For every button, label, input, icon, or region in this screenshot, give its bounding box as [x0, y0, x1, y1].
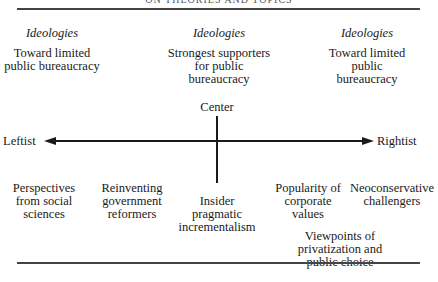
perspective-social-sciences: Perspectives from social sciences — [12, 182, 76, 221]
leftist-label: Leftist — [3, 135, 45, 148]
bottom-rule — [17, 262, 420, 264]
desc-line: public bureaucracy — [2, 60, 102, 73]
top-rule — [17, 8, 420, 10]
ideology-desc-center: Strongest supporters for public bureaucr… — [157, 47, 281, 86]
perspective-line: values — [268, 208, 348, 221]
perspective-line: sciences — [12, 208, 76, 221]
ideology-desc-right: Toward limited public bureaucracy — [317, 47, 417, 86]
center-axis-line — [216, 116, 218, 183]
perspective-insider-incrementalism: Insider pragmatic incrementalism — [172, 195, 262, 234]
rightist-label: Rightist — [377, 135, 437, 148]
perspective-line: incrementalism — [172, 221, 262, 234]
ideologies-heading-left: Ideologies — [2, 27, 102, 40]
ideologies-heading-right: Ideologies — [317, 27, 417, 40]
perspective-line: challengers — [346, 195, 438, 208]
center-label: Center — [187, 101, 247, 114]
perspective-line: reformers — [96, 208, 168, 221]
ideology-desc-left: Toward limited public bureaucracy — [2, 47, 102, 73]
right-arrowhead-icon — [362, 137, 374, 145]
perspective-neoconservative: Neoconservative challengers — [346, 182, 438, 208]
desc-line: bureaucracy — [317, 73, 417, 86]
perspective-reinventing-government: Reinventing government reformers — [96, 182, 168, 221]
running-header: ON THEORIES AND TOPICS — [0, 0, 438, 5]
left-arrowhead-icon — [44, 137, 56, 145]
left-right-axis-line — [50, 140, 367, 142]
perspective-corporate-values: Popularity of corporate values — [268, 182, 348, 221]
ideologies-heading-center: Ideologies — [167, 27, 271, 40]
desc-line: bureaucracy — [157, 73, 281, 86]
